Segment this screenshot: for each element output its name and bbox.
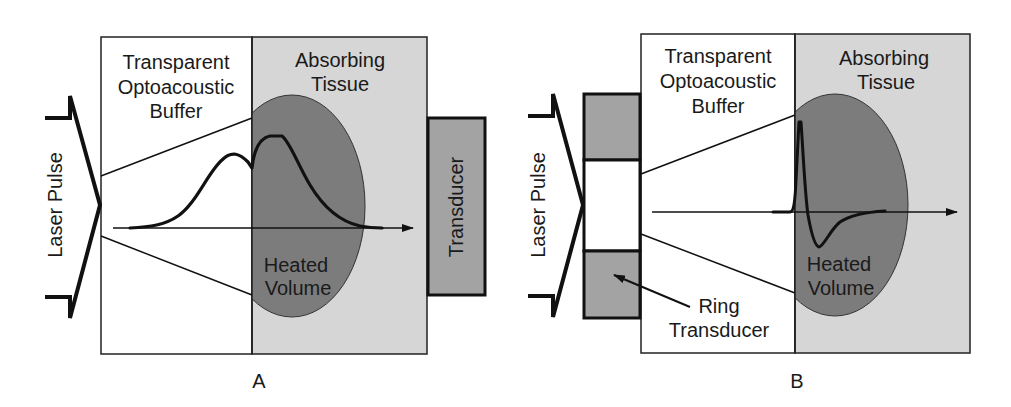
heated-volume-label-line2: Volume	[265, 277, 332, 299]
transducer-label: Transducer	[445, 156, 467, 257]
tissue-label-line1: Absorbing	[295, 49, 385, 71]
tissue-label-line1: Absorbing	[839, 47, 929, 69]
ring-transducer-bottom	[584, 251, 640, 318]
tissue-label-line2: Tissue	[857, 71, 915, 93]
tissue-label-line2: Tissue	[311, 73, 369, 95]
figure-canvas: Laser Pulse Transparent Optoacoustic Buf…	[0, 0, 1011, 407]
optoacoustic-figure: Laser Pulse Transparent Optoacoustic Buf…	[0, 0, 1011, 407]
buffer-label-line3: Buffer	[150, 100, 203, 122]
buffer-label-line1: Transparent	[122, 51, 230, 73]
panel-b-caption: B	[790, 370, 803, 392]
heated-volume-label-line2: Volume	[808, 277, 875, 299]
ring-transducer-top	[584, 94, 640, 160]
buffer-label-line2: Optoacoustic	[660, 70, 777, 92]
heated-volume-label-line1: Heated	[807, 253, 872, 275]
ring-transducer-label-line1: Ring	[698, 295, 739, 317]
buffer-label-line1: Transparent	[664, 45, 772, 67]
panel-a: Laser Pulse Transparent Optoacoustic Buf…	[44, 37, 485, 392]
buffer-label-line3: Buffer	[692, 95, 745, 117]
heated-volume-label-line1: Heated	[264, 254, 329, 276]
laser-pulse-label: Laser Pulse	[44, 152, 66, 258]
laser-pulse-label: Laser Pulse	[527, 152, 549, 258]
panel-a-caption: A	[252, 370, 266, 392]
ring-transducer-label-line2: Transducer	[669, 319, 770, 341]
panel-b: Laser Pulse Transparent Optoacoustic Buf…	[527, 34, 970, 392]
ring-transducer-center-aperture	[584, 160, 640, 251]
buffer-label-line2: Optoacoustic	[118, 76, 235, 98]
